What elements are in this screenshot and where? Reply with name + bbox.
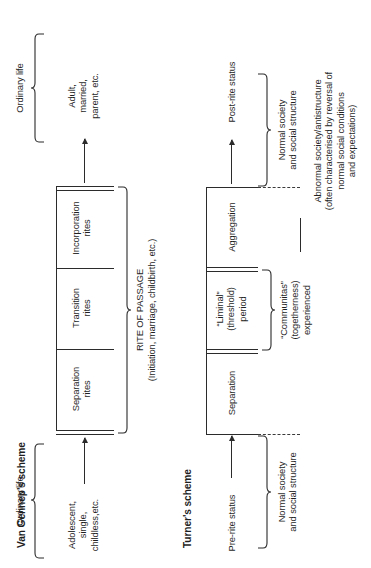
van-gennep-end-arrow <box>84 139 85 183</box>
ordinary-life-end-brace <box>30 32 44 144</box>
van-gennep-boundary-1-line-b <box>56 430 114 431</box>
van-gennep-phase-transition-label: Transition rites <box>70 271 93 345</box>
turner-phase-separation-label: Separation <box>226 355 237 431</box>
turner-liminal-start-line-b <box>206 349 258 350</box>
turner-boundary-1 <box>206 434 258 435</box>
van-gennep-phase-separation-label: Separation rites <box>70 352 93 426</box>
van-gennep-end-state-label: Adult, married, parent, etc. <box>66 56 100 136</box>
turner-start-arrow <box>231 436 232 478</box>
turner-end-arrow <box>231 140 232 184</box>
van-gennep-phase-top-rule <box>56 187 57 431</box>
van-gennep-phase-divider-2 <box>56 268 114 269</box>
normal-society-start-label: Normal society and social structure <box>276 430 299 554</box>
normal-society-end-label: Normal society and social structure <box>276 68 299 192</box>
diagram-canvas: Van Gennep's scheme Adolescent, single, … <box>0 0 371 568</box>
van-gennep-start-arrow <box>84 438 85 484</box>
turner-liminal-start-line-a <box>206 353 258 354</box>
ordinary-life-start-label: Ordinary life <box>14 439 25 563</box>
turner-scheme-title: Turner's scheme <box>182 469 193 548</box>
turner-phase-liminal-label: “Liminal” (threshold) period <box>214 271 248 347</box>
antistructure-label: Abnormal society/antistructure (often ch… <box>312 12 358 270</box>
rite-of-passage-brace <box>118 185 132 435</box>
ordinary-life-end-label: Ordinary life <box>14 28 25 148</box>
communitas-label: “Communitas” (togetherness) experienced <box>278 256 312 364</box>
turner-boundary-2 <box>206 187 258 188</box>
rotated-figure-wrapper: Van Gennep's scheme Adolescent, single, … <box>0 0 371 568</box>
turner-end-state-label: Post-rite status <box>226 46 237 138</box>
ordinary-life-start-brace <box>30 442 44 560</box>
van-gennep-boundary-2-line-b <box>56 186 114 187</box>
turner-start-state-label: Pre-rite status <box>226 481 237 565</box>
antistructure-connector-rule <box>300 218 301 252</box>
communitas-brace <box>262 268 276 352</box>
turner-phase-top-rule <box>206 187 207 435</box>
turner-liminal-end-line-b <box>206 267 258 268</box>
van-gennep-start-state-label: Adolescent, single, childless,etc. <box>66 488 100 562</box>
van-gennep-phase-divider-1 <box>56 349 114 350</box>
normal-society-start-brace <box>258 434 272 550</box>
van-gennep-boundary-1-line-a <box>56 434 114 435</box>
van-gennep-phase-incorporation-label: Incorporation rites <box>70 191 93 265</box>
normal-society-end-brace <box>258 72 272 188</box>
rite-of-passage-caption-examples: (Initiation, marriage, childbirth, etc.) <box>146 172 157 448</box>
turner-phase-aggregation-label: Aggregation <box>226 189 237 265</box>
rite-of-passage-caption-title: RITE OF PASSAGE <box>134 172 145 448</box>
